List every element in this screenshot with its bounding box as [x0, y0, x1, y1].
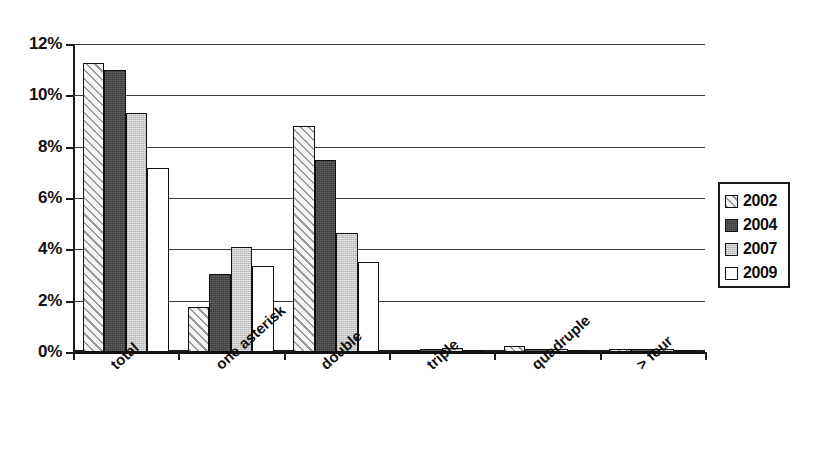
legend: 2002200420072009 — [718, 182, 790, 288]
x-tick-mark — [389, 352, 391, 360]
y-axis-label: 10% — [29, 85, 62, 105]
bar-group — [494, 44, 599, 352]
y-axis-label: 4% — [38, 239, 62, 259]
plot-area: 0%2%4%6%8%10%12% — [73, 44, 705, 352]
legend-label: 2004 — [743, 216, 777, 234]
bar-2002-triple — [399, 350, 421, 352]
y-axis-label: 12% — [29, 34, 62, 54]
legend-swatch-icon — [725, 219, 738, 232]
bar-2002-double — [293, 126, 315, 352]
x-tick-mark — [73, 352, 75, 360]
y-axis-label: 2% — [38, 291, 62, 311]
bar-2004-double — [315, 160, 337, 353]
legend-item-2002[interactable]: 2002 — [725, 189, 788, 213]
x-tick-mark — [600, 352, 602, 360]
bar-2009-total — [147, 168, 169, 352]
x-tick-mark — [494, 352, 496, 360]
legend-label: 2009 — [743, 264, 777, 282]
legend-item-2007[interactable]: 2007 — [725, 237, 788, 261]
y-axis-label: 6% — [38, 188, 62, 208]
x-tick-mark — [705, 352, 707, 360]
legend-label: 2002 — [743, 192, 777, 210]
bar-2004-total — [104, 70, 126, 352]
bar-2009-triple — [463, 350, 485, 352]
bar-2009--four — [674, 350, 696, 352]
bar-2002-one-asterisk — [188, 307, 210, 352]
bar-group — [389, 44, 494, 352]
bar-2002--four — [609, 349, 631, 352]
bar-group — [73, 44, 178, 352]
y-axis-label: 8% — [38, 137, 62, 157]
x-tick-mark — [178, 352, 180, 360]
bar-2007-total — [126, 113, 148, 352]
bar-chart: 0%2%4%6%8%10%12% totalone asteriskdouble… — [0, 0, 817, 472]
legend-label: 2007 — [743, 240, 777, 258]
legend-swatch-icon — [725, 267, 738, 280]
bar-2002-total — [83, 63, 105, 352]
legend-swatch-icon — [725, 243, 738, 256]
x-tick-mark — [284, 352, 286, 360]
bar-group — [600, 44, 705, 352]
bar-group — [284, 44, 389, 352]
legend-swatch-icon — [725, 195, 738, 208]
legend-item-2009[interactable]: 2009 — [725, 261, 788, 285]
bar-2004-one-asterisk — [209, 274, 231, 352]
legend-rows: 2002200420072009 — [725, 189, 788, 285]
bar-2002-quadruple — [504, 346, 526, 352]
bar-group — [178, 44, 283, 352]
legend-item-2004[interactable]: 2004 — [725, 213, 788, 237]
y-axis-label: 0% — [38, 342, 62, 362]
bar-2009-quadruple — [568, 350, 590, 352]
